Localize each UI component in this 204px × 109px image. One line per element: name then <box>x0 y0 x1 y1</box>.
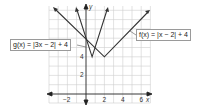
g-callout-leader <box>77 45 86 47</box>
axes <box>47 4 152 105</box>
y-axis-label: y <box>89 3 92 10</box>
x-tick-6: 6 <box>140 96 144 103</box>
x-tick-neg2: −2 <box>63 96 70 103</box>
y-tick-4: 4 <box>80 53 84 60</box>
grid <box>49 6 150 103</box>
x-axis-label: x <box>146 96 149 103</box>
x-axis-arrow-left-icon <box>47 92 52 96</box>
y-axis-arrow-down-icon <box>84 100 88 105</box>
g-arrow-left-icon <box>75 7 79 12</box>
f-label: f(x) = |x − 2| + 4 <box>136 29 191 41</box>
y-tick-2: 2 <box>80 71 84 78</box>
y-axis-arrow-up-icon <box>84 4 88 9</box>
g-graph <box>77 10 107 57</box>
x-tick-2: 2 <box>103 96 107 103</box>
g-arrow-right-icon <box>105 7 109 12</box>
graph <box>0 0 204 109</box>
x-tick-4: 4 <box>121 96 125 103</box>
g-label: g(x) = |3x − 2| + 4 <box>10 39 71 51</box>
